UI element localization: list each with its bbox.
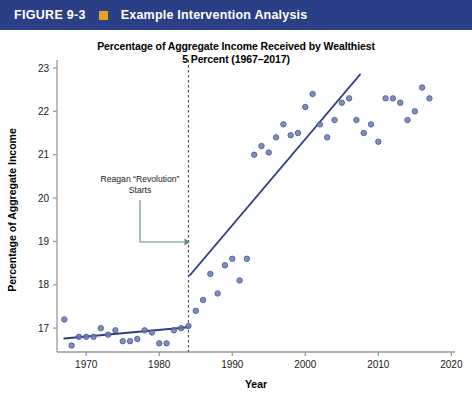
y-tick-label: 20 xyxy=(38,193,50,204)
data-point xyxy=(208,271,213,276)
x-axis-title: Year xyxy=(245,378,267,390)
data-point xyxy=(105,332,110,337)
figure-number: FIGURE 9-3 xyxy=(14,8,86,22)
data-point xyxy=(427,96,432,101)
figure-banner: FIGURE 9-3 Example Intervention Analysis xyxy=(0,0,472,30)
data-point xyxy=(186,323,191,328)
data-point xyxy=(171,328,176,333)
data-point xyxy=(91,334,96,339)
data-point xyxy=(135,336,140,341)
trend-lines xyxy=(64,75,360,339)
axis-titles: YearPercentage of Aggregate Income xyxy=(6,128,267,390)
x-tick-label: 2010 xyxy=(367,359,390,370)
data-point xyxy=(317,122,322,127)
x-tick-label: 1980 xyxy=(148,359,171,370)
x-tick-label: 2020 xyxy=(440,359,463,370)
y-tick-label: 19 xyxy=(38,236,50,247)
trend-line-post-intervention xyxy=(190,75,360,276)
data-point xyxy=(251,152,256,157)
y-tick-label: 22 xyxy=(38,106,50,117)
x-tick-label: 1970 xyxy=(75,359,98,370)
intervention-annotation: Reagan “Revolution”Starts xyxy=(101,174,190,246)
data-point xyxy=(332,117,337,122)
data-point xyxy=(69,343,74,348)
plot-axes xyxy=(57,60,455,352)
data-point xyxy=(84,334,89,339)
y-axis-ticks: 17181920212223 xyxy=(38,63,57,334)
data-point xyxy=(127,338,132,343)
data-point xyxy=(310,91,315,96)
data-point xyxy=(215,291,220,296)
x-tick-label: 1990 xyxy=(221,359,244,370)
data-point xyxy=(222,263,227,268)
data-point xyxy=(149,330,154,335)
data-point xyxy=(339,100,344,105)
orange-square-icon xyxy=(99,11,108,20)
data-point xyxy=(76,334,81,339)
data-point xyxy=(383,96,388,101)
data-point xyxy=(361,130,366,135)
figure-title: Example Intervention Analysis xyxy=(121,8,308,22)
y-tick-label: 21 xyxy=(38,149,50,160)
data-point xyxy=(288,133,293,138)
data-point xyxy=(325,135,330,140)
data-point xyxy=(346,96,351,101)
data-point xyxy=(376,139,381,144)
data-point xyxy=(354,117,359,122)
data-point xyxy=(113,328,118,333)
x-axis-ticks: 197019801990200020102020 xyxy=(75,352,463,370)
annotation-line2: Starts xyxy=(129,185,151,195)
data-point xyxy=(200,297,205,302)
data-point xyxy=(295,130,300,135)
annotation-line1: Reagan “Revolution” xyxy=(101,174,180,184)
trend-line-pre-intervention xyxy=(64,327,188,338)
data-points xyxy=(62,85,433,348)
data-point xyxy=(405,117,410,122)
y-axis-title: Percentage of Aggregate Income xyxy=(6,128,18,292)
data-point xyxy=(178,325,183,330)
data-point xyxy=(120,338,125,343)
data-point xyxy=(98,325,103,330)
scatter-plot: 17181920212223 197019801990200020102020 … xyxy=(0,30,472,410)
y-tick-label: 18 xyxy=(38,279,50,290)
x-tick-label: 2000 xyxy=(294,359,317,370)
data-point xyxy=(303,104,308,109)
data-point xyxy=(230,256,235,261)
data-point xyxy=(244,256,249,261)
data-point xyxy=(412,109,417,114)
data-point xyxy=(281,122,286,127)
data-point xyxy=(273,135,278,140)
data-point xyxy=(368,122,373,127)
data-point xyxy=(237,278,242,283)
data-point xyxy=(419,85,424,90)
data-point xyxy=(164,341,169,346)
data-point xyxy=(259,143,264,148)
data-point xyxy=(142,328,147,333)
data-point xyxy=(390,96,395,101)
data-point xyxy=(398,100,403,105)
data-point xyxy=(266,150,271,155)
data-point xyxy=(157,341,162,346)
y-tick-label: 23 xyxy=(38,63,50,74)
data-point xyxy=(62,317,67,322)
chart-container: Percentage of Aggregate Income Received … xyxy=(0,30,472,410)
y-tick-label: 17 xyxy=(38,323,50,334)
data-point xyxy=(193,308,198,313)
